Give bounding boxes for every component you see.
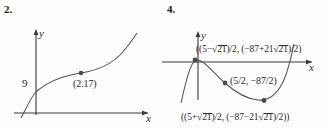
point-label-inflection: (5/2, −87/2) bbox=[230, 75, 277, 86]
sqrt-symbol-2: √21 bbox=[258, 112, 272, 122]
point-inflection bbox=[79, 71, 84, 76]
radical-bar bbox=[279, 45, 288, 46]
y-axis-label: y bbox=[201, 29, 206, 41]
radicand-2: 21 bbox=[279, 44, 288, 54]
point-inflection bbox=[223, 81, 228, 86]
graph-problem-2 bbox=[0, 0, 164, 129]
x-axis-label: x bbox=[309, 61, 314, 73]
radicand-1: 21 bbox=[202, 112, 211, 122]
label-part-mid: )/2, (−87−21 bbox=[211, 112, 258, 122]
point-local-maximum bbox=[193, 58, 198, 63]
point-label-local-minimum: ((5+√21)/2, (−87−21√21)/2)) bbox=[181, 112, 289, 122]
radicand-1: 21 bbox=[217, 44, 226, 54]
figure-sheet: 2. 9 (2.17) y x 4. bbox=[0, 0, 327, 129]
label-part-post: )/2)) bbox=[273, 112, 289, 122]
point-label-local-maximum: ((5−√21)/2, (−87+21√21)/2) bbox=[196, 44, 301, 54]
figure-problem-4: 4. ((5−√21)/2, (−87+21√21)/2) (5/2, −87/… bbox=[160, 0, 327, 129]
point-local-minimum bbox=[262, 98, 267, 103]
x-axis-label: x bbox=[146, 112, 151, 124]
y-axis-arrowhead bbox=[196, 31, 201, 37]
graph-problem-4 bbox=[160, 0, 327, 129]
curve-cubic-increasing bbox=[21, 33, 137, 118]
y-axis-arrowhead bbox=[34, 29, 39, 35]
point-label-inflection: (2.17) bbox=[73, 78, 97, 89]
radical-bar bbox=[203, 113, 212, 114]
y-axis-label: y bbox=[39, 27, 44, 39]
radicand-2: 21 bbox=[264, 112, 273, 122]
label-part-pre: ((5 bbox=[181, 112, 192, 122]
label-part-mid: )/2, (−87+21 bbox=[226, 44, 273, 54]
sqrt-symbol-1: √21 bbox=[212, 44, 226, 54]
sqrt-symbol-1: √21 bbox=[197, 112, 211, 122]
label-part-post: )/2) bbox=[288, 44, 301, 54]
radical-bar bbox=[218, 45, 227, 46]
y-intercept-tick-label: 9 bbox=[22, 77, 28, 89]
radical-bar bbox=[264, 113, 273, 114]
label-part-pre: ((5 bbox=[196, 44, 207, 54]
figure-problem-2: 2. 9 (2.17) y x bbox=[0, 0, 164, 129]
sqrt-symbol-2: √21 bbox=[273, 44, 287, 54]
